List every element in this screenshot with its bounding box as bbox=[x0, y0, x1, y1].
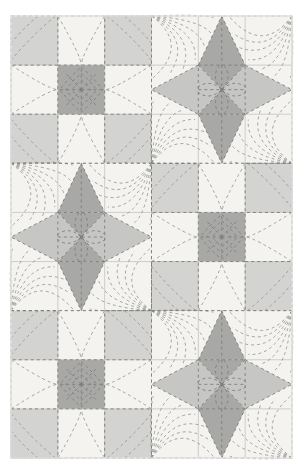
quilting-center-knot bbox=[220, 88, 223, 91]
patch-corner bbox=[245, 262, 292, 311]
patch-corner bbox=[105, 311, 152, 360]
patch-corner bbox=[105, 409, 152, 458]
patch-corner bbox=[105, 114, 152, 163]
quilting-center-knot bbox=[220, 383, 223, 386]
patch-edge bbox=[11, 65, 58, 114]
patch-corner bbox=[105, 16, 152, 65]
patch-edge bbox=[105, 360, 152, 409]
patch-corner bbox=[11, 16, 58, 65]
patch-edge bbox=[105, 65, 152, 114]
patch-corner bbox=[11, 409, 58, 458]
quilting-center-knot bbox=[80, 88, 83, 91]
patch-edge bbox=[245, 212, 292, 261]
block-r3c2 bbox=[151, 310, 293, 459]
patch-edge bbox=[198, 262, 245, 311]
patch-corner bbox=[11, 311, 58, 360]
block-r3c1 bbox=[11, 311, 152, 458]
patch-corner bbox=[152, 163, 199, 212]
patch-edge bbox=[58, 409, 105, 458]
block-r1c2 bbox=[151, 15, 293, 164]
quilting-center-knot bbox=[80, 235, 83, 238]
patch-edge bbox=[58, 311, 105, 360]
block-r2c1 bbox=[10, 163, 152, 312]
patch-edge bbox=[11, 360, 58, 409]
block-r1c1 bbox=[11, 16, 152, 163]
patch-edge bbox=[198, 163, 245, 212]
patch-corner bbox=[11, 114, 58, 163]
patch-edge bbox=[58, 114, 105, 163]
patch-edge bbox=[152, 212, 199, 261]
patch-edge bbox=[58, 16, 105, 65]
quilt-svg bbox=[0, 0, 304, 473]
patch-corner bbox=[152, 262, 199, 311]
quilting-center-knot bbox=[220, 236, 223, 239]
block-r2c2 bbox=[152, 163, 293, 310]
patch-corner bbox=[245, 163, 292, 212]
quilt-image bbox=[0, 0, 304, 473]
quilting-center-knot bbox=[80, 383, 83, 386]
